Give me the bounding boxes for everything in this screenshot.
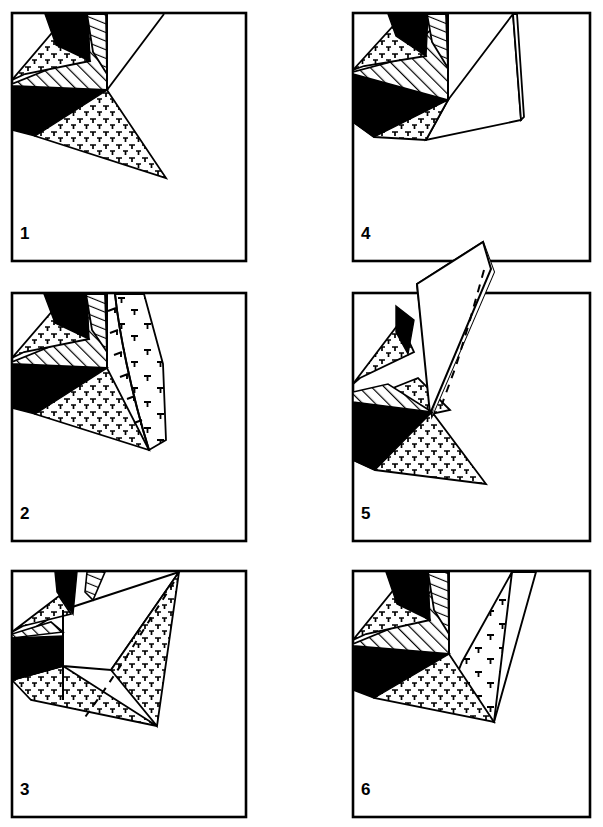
panel-1: 1 — [11, 12, 247, 262]
panel-2: 2 — [11, 292, 247, 542]
panel-6-number: 6 — [361, 781, 370, 798]
panel-1-drawing — [11, 12, 247, 262]
panel-4-drawing — [352, 12, 591, 262]
panel-3-drawing — [11, 570, 247, 818]
figure-panel-series: 1 — [0, 0, 603, 827]
panel-5: 5 — [352, 292, 591, 542]
panel-6-drawing — [352, 570, 591, 818]
panel-6: 6 — [352, 570, 591, 818]
panel-2-drawing — [11, 292, 247, 542]
panel-1-number: 1 — [20, 225, 29, 242]
panel-2-number: 2 — [20, 505, 29, 522]
panel-5-drawing — [352, 292, 591, 542]
panel-5-number: 5 — [361, 505, 370, 522]
panel-4-number: 4 — [361, 225, 370, 242]
panel-3: 3 — [11, 570, 247, 818]
panel-3-number: 3 — [20, 781, 29, 798]
panel-4: 4 — [352, 12, 591, 262]
